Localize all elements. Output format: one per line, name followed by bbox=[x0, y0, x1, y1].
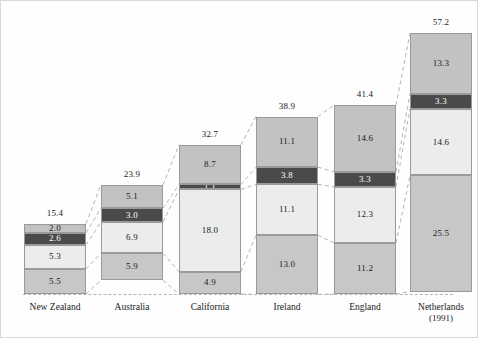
bar-segment-segment-2: 5.3 bbox=[24, 245, 86, 269]
bar-segment-segment-4: 14.6 bbox=[334, 105, 396, 172]
bar-total-label: 23.9 bbox=[101, 169, 163, 179]
segment-value-label: 25.5 bbox=[433, 229, 450, 238]
bar-california: 32.78.71.118.04.9California bbox=[179, 129, 241, 324]
segment-value-label: 11.1 bbox=[279, 137, 295, 146]
bar-total-label: 41.4 bbox=[334, 89, 396, 99]
segment-value-label: 3.3 bbox=[359, 175, 371, 184]
segment-value-label: 12.3 bbox=[357, 210, 374, 219]
bar-segment-segment-2: 11.1 bbox=[256, 184, 318, 235]
bar-segment-segment-4: 2.0 bbox=[24, 224, 86, 233]
segment-value-label: 18.0 bbox=[202, 226, 219, 235]
bar-segment-segment-1: 13.0 bbox=[256, 235, 318, 294]
segment-value-label: 3.8 bbox=[281, 171, 293, 180]
bar-segment-segment-1: 25.5 bbox=[410, 175, 472, 291]
segment-value-label: 6.9 bbox=[126, 233, 138, 242]
bar-segment-segment-2: 14.6 bbox=[410, 109, 472, 176]
segment-value-label: 14.6 bbox=[357, 134, 374, 143]
segment-value-label: 5.1 bbox=[126, 192, 138, 201]
stacked-bar-plot-area: 15.42.02.65.35.5New Zealand23.95.13.06.9… bbox=[1, 1, 478, 338]
bar-segment-segment-2: 18.0 bbox=[179, 189, 241, 271]
category-sublabel: (1991) bbox=[388, 313, 478, 324]
bar-segment-segment-4: 5.1 bbox=[101, 185, 163, 208]
bar-total-label: 15.4 bbox=[24, 208, 86, 218]
segment-value-label: 5.5 bbox=[49, 277, 61, 286]
segment-value-label: 2.6 bbox=[49, 234, 61, 243]
bar-segment-segment-3: 3.0 bbox=[101, 208, 163, 222]
bar-segment-segment-2: 12.3 bbox=[334, 187, 396, 243]
chart-figure: 15.42.02.65.35.5New Zealand23.95.13.06.9… bbox=[0, 0, 478, 338]
bar-segment-segment-4: 13.3 bbox=[410, 33, 472, 94]
segment-value-label: 11.1 bbox=[279, 205, 295, 214]
bar-segment-segment-4: 8.7 bbox=[179, 145, 241, 185]
bar-total-label: 57.2 bbox=[410, 17, 472, 27]
bar-england: 41.414.63.312.311.2England bbox=[334, 89, 396, 324]
bar-netherlands: 57.213.33.314.625.5Netherlands(1991) bbox=[410, 17, 472, 324]
segment-value-label: 13.3 bbox=[433, 59, 450, 68]
bar-segment-segment-1: 5.9 bbox=[101, 253, 163, 280]
bar-total-label: 38.9 bbox=[256, 101, 318, 111]
segment-value-label: 8.7 bbox=[204, 160, 216, 169]
bar-segment-segment-1: 4.9 bbox=[179, 272, 241, 294]
bar-total-label: 32.7 bbox=[179, 129, 241, 139]
segment-value-label: 14.6 bbox=[433, 138, 450, 147]
bar-segment-segment-4: 11.1 bbox=[256, 117, 318, 168]
bar-australia: 23.95.13.06.95.9Australia bbox=[101, 169, 163, 324]
bar-segment-segment-2: 6.9 bbox=[101, 222, 163, 253]
bar-segment-segment-3: 3.3 bbox=[334, 172, 396, 187]
segment-value-label: 5.9 bbox=[126, 262, 138, 271]
segment-value-label: 5.3 bbox=[49, 252, 61, 261]
bar-segment-segment-1: 11.2 bbox=[334, 243, 396, 294]
bar-segment-segment-3: 3.8 bbox=[256, 167, 318, 184]
bar-segment-segment-3: 3.3 bbox=[410, 94, 472, 109]
bar-ireland: 38.911.13.811.113.0Ireland bbox=[256, 101, 318, 324]
bar-new-zealand: 15.42.02.65.35.5New Zealand bbox=[24, 208, 86, 324]
segment-value-label: 4.9 bbox=[204, 278, 216, 287]
category-label-netherlands: Netherlands(1991) bbox=[388, 302, 478, 324]
segment-value-label: 2.0 bbox=[49, 224, 61, 233]
segment-value-label: 3.0 bbox=[126, 211, 138, 220]
bar-segment-segment-3: 2.6 bbox=[24, 233, 86, 245]
bar-segment-segment-1: 5.5 bbox=[24, 269, 86, 294]
segment-value-label: 3.3 bbox=[435, 97, 447, 106]
segment-value-label: 13.0 bbox=[279, 260, 296, 269]
segment-value-label: 11.2 bbox=[357, 264, 373, 273]
